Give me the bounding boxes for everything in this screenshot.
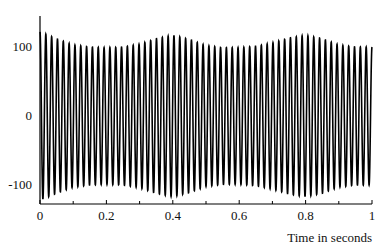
chart: 00.20.40.60.81 1000-100 Time in seconds	[0, 0, 388, 252]
x-tick-label: 0.8	[297, 208, 313, 223]
signal-line	[40, 32, 372, 199]
y-ticks: 1000-100	[8, 39, 32, 192]
y-tick-label: -100	[8, 177, 32, 192]
x-tick-label: 0.6	[231, 208, 248, 223]
x-tick-label: 0	[37, 208, 44, 223]
y-tick-label: 100	[13, 39, 33, 54]
x-tick-label: 1	[369, 208, 376, 223]
plot-area	[40, 32, 372, 199]
y-tick-label: 0	[26, 108, 33, 123]
x-tick-label: 0.4	[165, 208, 182, 223]
x-tick-label: 0.2	[98, 208, 114, 223]
x-axis-label: Time in seconds	[287, 230, 372, 245]
